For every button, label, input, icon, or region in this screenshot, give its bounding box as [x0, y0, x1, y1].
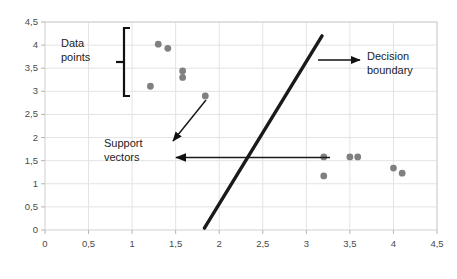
annotation-decision-boundary-label: Decision boundary — [367, 50, 413, 77]
y-tick-label: 3 — [12, 85, 38, 96]
data-point-class-b — [320, 173, 327, 180]
y-tick-label: 2,5 — [12, 108, 38, 119]
annotation-support-vectors-label: Support vectors — [104, 137, 143, 164]
data-point-class-a — [202, 93, 209, 100]
y-tick-label: 2 — [12, 132, 38, 143]
annotation-data-points-label: Data points — [61, 37, 90, 64]
y-tick-label: 0,5 — [12, 201, 38, 212]
data-point-class-b — [354, 154, 361, 161]
y-tick-label: 1,5 — [12, 155, 38, 166]
scatter-plot-chart: 00,511,522,533,544,5 00,511,522,533,544,… — [0, 0, 457, 248]
data-point-class-b — [346, 154, 353, 161]
y-tick-label: 4 — [12, 39, 38, 50]
data-point-class-a — [179, 68, 186, 75]
data-point-class-b — [399, 170, 406, 177]
data-point-class-a — [179, 74, 186, 81]
data-point-class-a — [155, 41, 162, 48]
figure-3-6: 00,511,522,533,544,5 00,511,522,533,544,… — [0, 0, 457, 279]
data-point-class-a — [147, 83, 154, 90]
figure-caption-bar: FIGURE 3.6 — [0, 248, 457, 279]
data-point-class-b — [390, 165, 397, 172]
y-tick-label: 0 — [12, 224, 38, 235]
y-tick-label: 1 — [12, 178, 38, 189]
data-point-class-a — [164, 45, 171, 52]
y-tick-label: 3,5 — [12, 62, 38, 73]
y-tick-label: 4,5 — [12, 16, 38, 27]
